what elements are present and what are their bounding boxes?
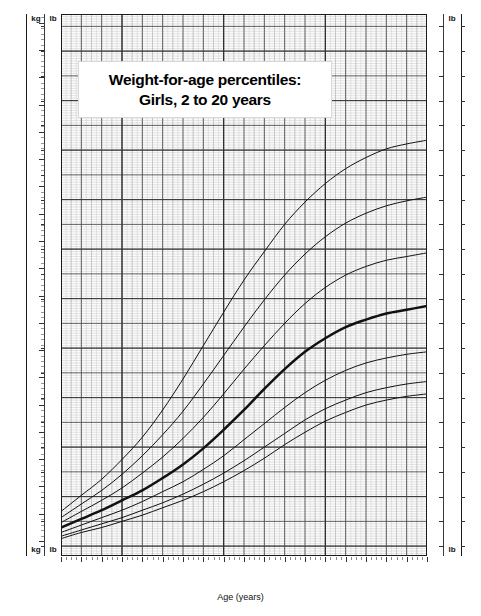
- y-minortick-kg: [41, 143, 44, 144]
- y-minortick-kg: [41, 115, 44, 116]
- y-minortick-kg: [41, 192, 44, 193]
- x-tickmark-5: [122, 557, 123, 562]
- x-tickmark-14: [305, 557, 306, 562]
- y-tickmark-right-a: [439, 26, 444, 27]
- y-tickmark-right-a: [439, 200, 444, 201]
- y-minortick-kg: [41, 345, 44, 346]
- y-minortick-kg: [41, 72, 44, 73]
- y-tickmark-right-a: [439, 175, 444, 176]
- y-tickmark-right-b: [461, 51, 465, 52]
- y-tickmark-lb-40: [41, 497, 44, 498]
- y-tickmark-right-a: [439, 447, 444, 448]
- y-minortick-kg: [41, 465, 44, 466]
- x-minortick: [229, 557, 230, 560]
- x-tickmark-10: [224, 557, 225, 562]
- y-minortick-kg: [41, 454, 44, 455]
- y-tickmark-right-a: [439, 51, 444, 52]
- y-tickmark-kg-25: [39, 459, 44, 460]
- x-tickmark-20: [427, 557, 428, 562]
- y-tickmark-kg-55: [39, 296, 44, 297]
- x-minortick: [153, 557, 154, 560]
- y-minortick-kg: [41, 388, 44, 389]
- x-tickmark-18: [386, 557, 387, 562]
- y-tickmark-right-b: [461, 175, 465, 176]
- y-tickmark-lb-80: [41, 398, 44, 399]
- y-minortick-kg: [41, 492, 44, 493]
- y-minortick-kg: [41, 203, 44, 204]
- y-tickmark-lb-100: [41, 348, 44, 349]
- y-minortick-kg: [41, 230, 44, 231]
- y-minortick-kg: [41, 257, 44, 258]
- y-tickmark-right-b: [461, 76, 465, 77]
- x-minortick: [97, 557, 98, 560]
- y-minortick-kg: [41, 394, 44, 395]
- y-minortick-kg: [41, 306, 44, 307]
- x-tickmark-4: [102, 557, 103, 562]
- y-tickmark-right-b: [461, 472, 465, 473]
- y-minortick-kg: [41, 525, 44, 526]
- x-minortick: [336, 557, 337, 560]
- x-minortick: [330, 557, 331, 560]
- y-minortick-kg: [41, 443, 44, 444]
- lb-caption-top: lb: [49, 14, 56, 23]
- x-minortick: [275, 557, 276, 560]
- y-tickmark-right-a: [439, 150, 444, 151]
- y-tickmark-right-a: [439, 348, 444, 349]
- y-minortick-kg: [41, 154, 44, 155]
- y-minortick-kg: [41, 126, 44, 127]
- x-axis-title: Age (years): [0, 592, 481, 602]
- x-minortick: [417, 557, 418, 560]
- y-tickmark-lb-30: [41, 521, 44, 522]
- y-minortick-kg: [41, 263, 44, 264]
- y-minortick-kg: [41, 235, 44, 236]
- y-minortick-kg: [41, 110, 44, 111]
- y-tickmark-right-a: [439, 224, 444, 225]
- y-minortick-kg: [41, 448, 44, 449]
- y-tickmark-right-b: [461, 447, 465, 448]
- x-minortick: [168, 557, 169, 560]
- outer-frame-right: [461, 14, 462, 556]
- x-minortick: [376, 557, 377, 560]
- x-minortick: [402, 557, 403, 560]
- y-tickmark-right-a: [439, 76, 444, 77]
- y-tickmark-right-a: [439, 125, 444, 126]
- x-minortick: [92, 557, 93, 560]
- y-minortick-kg: [41, 301, 44, 302]
- y-tickmark-lb-200: [41, 101, 44, 102]
- x-minortick: [66, 557, 67, 560]
- y-minortick-kg: [41, 121, 44, 122]
- x-tickmark-6: [142, 557, 143, 562]
- y-tickmark-kg-75: [39, 186, 44, 187]
- y-minortick-kg: [41, 88, 44, 89]
- x-minortick: [290, 557, 291, 560]
- y-minortick-kg: [41, 508, 44, 509]
- x-minortick: [193, 557, 194, 560]
- x-minortick: [188, 557, 189, 560]
- y-tickmark-right-b: [461, 26, 465, 27]
- y-tickmark-lb-170: [41, 175, 44, 176]
- x-tickmark-11: [244, 557, 245, 562]
- x-minortick: [208, 557, 209, 560]
- x-minortick: [412, 557, 413, 560]
- y-tickmark-right-b: [461, 323, 465, 324]
- y-tickmark-kg-45: [39, 350, 44, 351]
- chart-title-line1: Weight-for-age percentiles:: [109, 70, 301, 90]
- y-minortick-kg: [41, 530, 44, 531]
- y-minortick-kg: [41, 83, 44, 84]
- y-tickmark-kg-60: [39, 268, 44, 269]
- x-minortick: [300, 557, 301, 560]
- x-minortick: [158, 557, 159, 560]
- y-tickmark-kg-35: [39, 405, 44, 406]
- right-lb-caption-top: lb: [448, 14, 455, 23]
- x-minortick: [86, 557, 87, 560]
- chart-title-box: Weight-for-age percentiles: Girls, 2 to …: [78, 61, 332, 118]
- y-minortick-kg: [41, 317, 44, 318]
- y-tickmark-lb-210: [41, 76, 44, 77]
- y-tickmark-lb-120: [41, 299, 44, 300]
- y-minortick-kg: [41, 181, 44, 182]
- x-tickmark-8: [183, 557, 184, 562]
- x-minortick: [371, 557, 372, 560]
- x-minortick: [76, 557, 77, 560]
- y-tickmark-right-b: [461, 224, 465, 225]
- x-minortick: [295, 557, 296, 560]
